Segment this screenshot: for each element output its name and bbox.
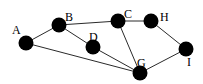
node-label-g: G xyxy=(137,56,146,70)
graph-diagram: ABDCHIG xyxy=(0,0,203,84)
node-label-a: A xyxy=(12,23,21,37)
edge-a-g xyxy=(26,43,140,73)
node-a xyxy=(19,36,34,51)
node-label-h: H xyxy=(160,10,169,24)
edge-d-g xyxy=(93,47,140,73)
node-label-d: D xyxy=(89,30,98,44)
node-label-i: I xyxy=(187,55,191,69)
node-h xyxy=(144,14,159,29)
node-label-b: B xyxy=(65,10,73,24)
node-i xyxy=(179,42,194,57)
edge-i-g xyxy=(140,49,186,73)
node-label-c: C xyxy=(124,7,132,21)
edges-layer xyxy=(26,21,186,73)
